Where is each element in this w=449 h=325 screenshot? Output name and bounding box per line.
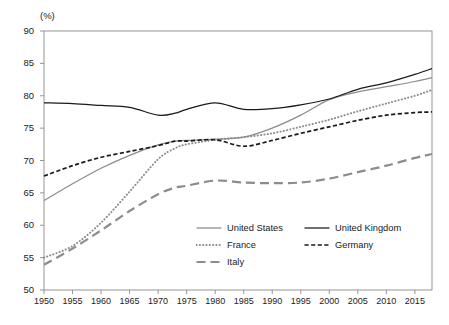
y-axis-ticks	[40, 31, 44, 290]
legend-swatch-dashed	[304, 240, 330, 250]
series-line-germany	[44, 112, 432, 176]
x-axis-ticks	[44, 290, 415, 294]
series-line-united-kingdom	[44, 69, 432, 116]
y-tick-label: 60	[12, 219, 34, 230]
y-tick-label: 70	[12, 155, 34, 166]
legend-label: France	[227, 238, 256, 252]
chart-legend: United StatesUnited KingdomFranceGermany…	[196, 221, 412, 273]
y-tick-label: 50	[12, 284, 34, 295]
legend-item-italy: Italy	[196, 255, 244, 269]
legend-item-france: France	[196, 238, 256, 252]
legend-label: Germany	[335, 238, 373, 252]
legend-item-united-states: United States	[196, 221, 283, 235]
y-tick-label: 85	[12, 57, 34, 68]
legend-label: Italy	[227, 255, 244, 269]
legend-swatch-solid	[304, 223, 330, 233]
chart-plot-area	[0, 0, 449, 325]
y-tick-label: 65	[12, 187, 34, 198]
legend-label: United Kingdom	[335, 221, 401, 235]
legend-swatch-solid	[196, 223, 222, 233]
legend-item-united-kingdom: United Kingdom	[304, 221, 401, 235]
y-tick-label: 80	[12, 90, 34, 101]
y-tick-label: 75	[12, 122, 34, 133]
chart-figure: (%) 505560657075808590 19501955196019651…	[0, 0, 449, 325]
legend-label: United States	[227, 221, 283, 235]
legend-item-germany: Germany	[304, 238, 373, 252]
y-tick-label: 55	[12, 252, 34, 263]
x-tick-label: 2015	[398, 296, 432, 306]
y-tick-label: 90	[12, 25, 34, 36]
legend-swatch-dotted	[196, 240, 222, 250]
legend-swatch-longdash	[196, 257, 222, 267]
